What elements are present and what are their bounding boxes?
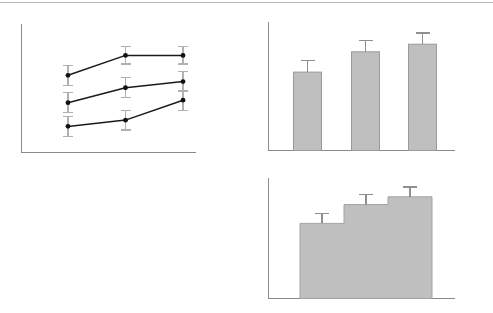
figure-root bbox=[0, 0, 493, 313]
error-bar bbox=[301, 61, 315, 72]
data-point-marker bbox=[181, 53, 186, 58]
error-bar bbox=[359, 195, 373, 205]
data-point-marker bbox=[181, 79, 186, 84]
line-series-2 bbox=[63, 72, 188, 113]
error-bar bbox=[359, 40, 373, 51]
line-chart-axes bbox=[21, 24, 196, 153]
bar-group-3 bbox=[409, 33, 437, 151]
histogram-step-shape bbox=[300, 197, 432, 299]
data-point-marker bbox=[123, 85, 128, 90]
bar-group-2 bbox=[352, 40, 380, 150]
bar-rect bbox=[294, 72, 322, 150]
error-bar bbox=[403, 187, 417, 197]
panel-bar-chart bbox=[250, 10, 493, 170]
panel-line-chart bbox=[0, 10, 250, 170]
top-divider-rule bbox=[0, 2, 493, 3]
line-chart-svg bbox=[0, 10, 250, 170]
error-bar bbox=[416, 33, 430, 44]
bar-chart-plot-area bbox=[294, 33, 437, 151]
data-point-marker bbox=[66, 73, 71, 78]
bar-rect bbox=[352, 52, 380, 151]
line-chart-plot-area bbox=[63, 47, 188, 137]
data-point-marker bbox=[181, 98, 186, 103]
data-point-marker bbox=[123, 118, 128, 123]
histogram-plot-area bbox=[300, 187, 432, 299]
panel-histogram-chart bbox=[250, 170, 493, 313]
bar-group-1 bbox=[294, 61, 322, 151]
data-point-marker bbox=[123, 53, 128, 58]
data-point-marker bbox=[66, 124, 71, 129]
bar-rect bbox=[409, 44, 437, 150]
data-point-marker bbox=[66, 100, 71, 105]
error-bar bbox=[315, 213, 329, 223]
bar-chart-svg bbox=[250, 10, 493, 170]
histogram-svg bbox=[250, 170, 493, 313]
